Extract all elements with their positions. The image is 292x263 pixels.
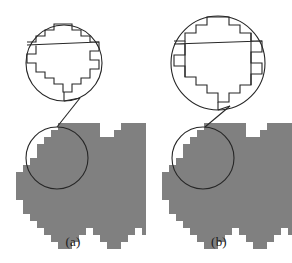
pixel-run xyxy=(267,123,292,130)
magnifier-connector-a xyxy=(57,98,80,127)
pixel-run xyxy=(190,137,292,144)
pixel-run xyxy=(114,130,146,137)
line-segment-approximation-detail-b xyxy=(174,17,262,110)
pixelated-region-a xyxy=(16,123,146,249)
pixel-run xyxy=(183,221,292,228)
pixel-run xyxy=(44,137,146,144)
panel-b-graphic xyxy=(146,0,292,263)
pixelated-region-b xyxy=(162,123,292,249)
caption-a: (a) xyxy=(0,234,146,250)
pixel-run xyxy=(16,193,146,200)
pixel-run xyxy=(183,144,292,151)
pixel-run xyxy=(169,165,292,172)
pixel-run xyxy=(23,200,146,207)
pixel-run xyxy=(23,207,146,214)
pixel-run xyxy=(162,186,292,193)
pixel-run xyxy=(30,214,146,221)
caption-b: (b) xyxy=(146,234,292,250)
pixel-run xyxy=(204,123,246,130)
figure-root: (a) xyxy=(0,0,292,263)
pixel-run xyxy=(176,214,292,221)
panel-a-graphic xyxy=(0,0,146,263)
staircase-boundary-detail-a xyxy=(27,24,99,101)
pixel-run xyxy=(37,151,146,158)
panel-a: (a) xyxy=(0,0,146,263)
pixel-run xyxy=(16,186,146,193)
pixel-run xyxy=(183,151,292,158)
pixel-run xyxy=(37,221,146,228)
pixel-run xyxy=(169,207,292,214)
pixel-run xyxy=(169,200,292,207)
pixel-run xyxy=(23,165,146,172)
pixel-run xyxy=(162,193,292,200)
panel-b: (b) xyxy=(146,0,292,263)
pixel-run xyxy=(37,144,146,151)
pixel-run xyxy=(58,123,100,130)
pixel-run xyxy=(121,123,146,130)
pixel-run xyxy=(260,130,292,137)
